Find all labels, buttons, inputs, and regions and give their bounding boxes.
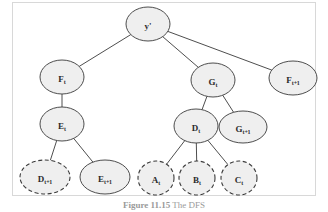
tree-node-Ct[interactable] (221, 161, 257, 195)
tree-nodes (20, 7, 317, 195)
caption-label: Figure (123, 200, 148, 210)
tree-node-Et[interactable] (40, 107, 84, 141)
tree-node-At[interactable] (138, 161, 174, 195)
tree-edges (50, 31, 271, 164)
tree-edge-root-to-Gt (163, 37, 199, 68)
tree-node-Gt[interactable] (191, 63, 235, 97)
tree-node-Et1[interactable] (80, 160, 130, 194)
tree-edge-Dt-to-At (167, 141, 185, 165)
tree-edge-Et-to-Dt1 (50, 141, 56, 161)
tree-node-Gt1[interactable] (219, 111, 267, 143)
tree-edge-root-to-Ft (79, 35, 131, 67)
caption-number: 11.15 (150, 200, 170, 210)
tree-node-Bt[interactable] (179, 161, 215, 195)
tree-edge-Dt-to-Ct (208, 140, 228, 164)
caption-text: The DFS (172, 200, 205, 210)
tree-node-Dt[interactable] (174, 109, 218, 143)
tree-node-Ft1[interactable] (269, 61, 317, 95)
tree-node-Dt1[interactable] (20, 160, 70, 194)
tree-node-root[interactable] (126, 7, 170, 41)
tree-edge-Et-to-Et1 (74, 138, 93, 162)
tree-diagram (0, 0, 328, 212)
tree-edge-Gt-to-Dt (202, 96, 207, 109)
figure-caption: Figure 11.15 The DFS (0, 199, 328, 212)
tree-node-Ft[interactable] (40, 60, 84, 94)
tree-edge-Gt-to-Gt1 (223, 95, 234, 112)
figure-container: y'FtGtFt+1EtDtGt+1Dt+1Et+1AtBtCt Figure … (0, 0, 328, 212)
